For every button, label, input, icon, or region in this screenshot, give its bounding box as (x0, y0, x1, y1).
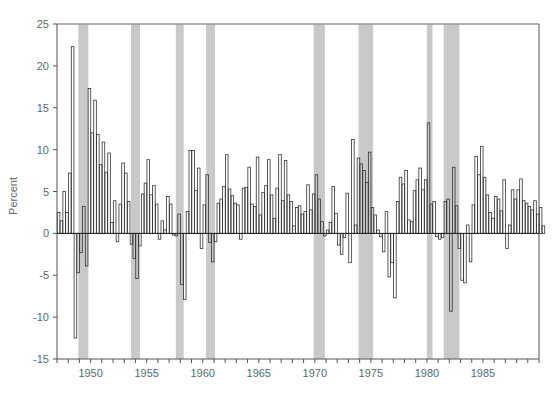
data-bar (511, 190, 514, 234)
data-bar (444, 202, 447, 234)
data-bar (139, 233, 142, 246)
y-tick-label: 15 (37, 102, 49, 114)
data-bar (284, 161, 287, 234)
data-bar (329, 222, 332, 233)
data-bar (458, 233, 461, 248)
data-bar (394, 233, 397, 297)
data-bar (57, 212, 60, 233)
data-bar (326, 230, 329, 233)
data-bar (424, 180, 427, 234)
data-bar (377, 230, 380, 233)
x-tick-label: 1980 (415, 367, 439, 379)
data-bar (371, 207, 374, 233)
data-bar (248, 167, 251, 233)
data-bar (253, 207, 256, 234)
y-tick-label: 5 (43, 186, 49, 198)
data-bar (113, 201, 116, 234)
data-bar (349, 233, 352, 262)
data-bar (525, 203, 528, 233)
data-bar (382, 233, 385, 251)
data-bar (307, 185, 310, 234)
data-bar (295, 207, 298, 233)
data-bar (503, 180, 506, 234)
data-bar (410, 222, 413, 234)
data-bar (97, 135, 100, 234)
data-bar (438, 233, 441, 239)
data-bar (217, 203, 220, 233)
data-bar (186, 212, 189, 234)
data-bar (469, 233, 472, 261)
data-bar (494, 197, 497, 234)
data-bar (108, 153, 111, 233)
data-bar (256, 157, 259, 233)
data-bar (203, 205, 206, 233)
data-bar (301, 214, 304, 233)
data-bar (94, 100, 97, 233)
data-bar (385, 212, 388, 234)
data-bar (531, 210, 534, 233)
data-bar (335, 213, 338, 233)
data-bar (298, 206, 301, 234)
data-bar (489, 212, 492, 233)
data-bar (144, 183, 147, 233)
data-bar (231, 196, 234, 234)
data-bar (413, 191, 416, 234)
data-bar (265, 186, 268, 234)
data-bar (85, 233, 88, 266)
data-bar (542, 226, 545, 234)
data-bar (102, 142, 105, 233)
recession-band (131, 24, 140, 359)
y-tick-label: -15 (33, 353, 49, 365)
data-bar (486, 195, 489, 234)
data-bar (332, 186, 335, 233)
data-bar (497, 199, 500, 233)
x-tick-label: 1965 (247, 367, 271, 379)
data-bar (66, 212, 69, 233)
data-bar (130, 233, 133, 244)
y-axis-title: Percent (7, 177, 19, 215)
data-bar (99, 165, 102, 234)
data-bar (455, 206, 458, 234)
y-tick-label: -5 (39, 269, 49, 281)
data-bar (399, 177, 402, 233)
data-bar (396, 202, 399, 234)
data-bar (441, 233, 444, 237)
data-bar (464, 233, 467, 282)
data-bar (427, 123, 430, 234)
recession-band (78, 24, 88, 359)
data-bars (57, 47, 544, 338)
x-axis: 19501955196019651970197519801985 (57, 359, 539, 379)
data-bar (374, 215, 377, 233)
y-axis: 2520151050-5-10-15 (33, 18, 57, 365)
data-bar (480, 146, 483, 233)
data-bar (158, 233, 161, 239)
data-bar (251, 204, 254, 233)
y-tick-label: -10 (33, 311, 49, 323)
data-bar (239, 233, 242, 239)
data-bar (276, 188, 279, 233)
data-bar (127, 202, 130, 234)
data-bar (517, 190, 520, 234)
data-bar (450, 233, 453, 311)
y-tick-label: 0 (43, 227, 49, 239)
data-bar (475, 156, 478, 233)
data-bar (178, 214, 181, 233)
data-bar (357, 158, 360, 233)
data-bar (111, 222, 114, 233)
data-bar (220, 199, 223, 233)
data-bar (539, 207, 542, 233)
data-bar (197, 168, 200, 233)
data-bar (366, 182, 369, 233)
data-bar (506, 233, 509, 248)
data-bar (514, 199, 517, 233)
recession-band (176, 24, 184, 359)
data-bar (461, 233, 464, 280)
data-bar (259, 215, 262, 233)
y-tick-label: 25 (37, 18, 49, 30)
data-bar (287, 195, 290, 234)
data-bar (483, 177, 486, 233)
data-bar (245, 187, 248, 233)
data-bar (368, 152, 371, 233)
data-bar (466, 225, 469, 233)
bar-chart: 2520151050-5-10-15 195019551960196519701… (0, 0, 559, 397)
